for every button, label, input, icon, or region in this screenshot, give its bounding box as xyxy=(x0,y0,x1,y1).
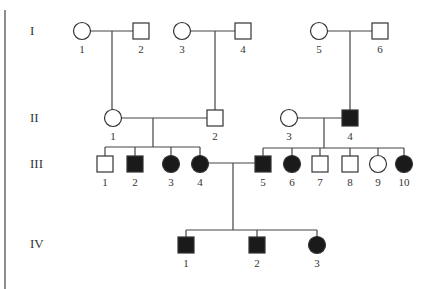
unaffected-female-circle-icon xyxy=(370,156,387,173)
unaffected-female-circle-icon xyxy=(74,23,91,40)
generation-label-IV: IV xyxy=(30,236,44,251)
affected-male-square-icon xyxy=(178,237,194,253)
affected-male-square-icon xyxy=(249,237,265,253)
individual-number: 3 xyxy=(286,130,292,142)
unaffected-male-square-icon xyxy=(312,156,328,172)
individual-IV-3: 3 xyxy=(309,237,326,270)
individual-III-4: 4 xyxy=(192,156,209,189)
affected-male-square-icon xyxy=(342,110,358,126)
individual-IV-1: 1 xyxy=(178,237,194,269)
individual-number: 4 xyxy=(240,43,246,55)
connector-lines xyxy=(5,10,404,289)
individual-II-2: 2 xyxy=(207,110,223,142)
individual-number: 2 xyxy=(212,130,218,142)
individual-III-7: 7 xyxy=(312,156,328,188)
affected-female-circle-icon xyxy=(163,156,180,173)
individual-number: 5 xyxy=(316,43,322,55)
pedigree-chart: IIIIIIIV 123456123412345678910123 xyxy=(0,0,434,289)
individual-number: 4 xyxy=(197,176,203,188)
generation-label-I: I xyxy=(30,23,34,38)
individual-IV-2: 2 xyxy=(249,237,265,269)
individual-II-3: 3 xyxy=(281,110,298,143)
generation-labels: IIIIIIIV xyxy=(30,23,44,251)
generation-label-II: II xyxy=(30,110,39,125)
unaffected-female-circle-icon xyxy=(311,23,328,40)
unaffected-female-circle-icon xyxy=(174,23,191,40)
individual-III-6: 6 xyxy=(284,156,301,189)
unaffected-male-square-icon xyxy=(342,156,358,172)
affected-male-square-icon xyxy=(255,156,271,172)
individual-number: 4 xyxy=(347,130,353,142)
individual-number: 2 xyxy=(138,43,144,55)
individual-number: 1 xyxy=(102,176,108,188)
individual-number: 1 xyxy=(183,257,189,269)
unaffected-female-circle-icon xyxy=(281,110,298,127)
individual-number: 7 xyxy=(317,176,323,188)
individual-III-9: 9 xyxy=(370,156,387,189)
individual-III-10: 10 xyxy=(396,156,413,189)
unaffected-male-square-icon xyxy=(207,110,223,126)
affected-female-circle-icon xyxy=(309,237,326,254)
individual-III-5: 5 xyxy=(255,156,271,188)
individuals: 123456123412345678910123 xyxy=(74,23,413,270)
individual-II-4: 4 xyxy=(342,110,358,142)
individual-number: 1 xyxy=(110,130,116,142)
individual-I-1: 1 xyxy=(74,23,91,56)
individual-III-1: 1 xyxy=(97,156,113,188)
affected-male-square-icon xyxy=(127,156,143,172)
individual-I-3: 3 xyxy=(174,23,191,56)
individual-number: 3 xyxy=(168,176,174,188)
individual-number: 8 xyxy=(347,176,353,188)
individual-III-2: 2 xyxy=(127,156,143,188)
unaffected-female-circle-icon xyxy=(105,110,122,127)
affected-female-circle-icon xyxy=(284,156,301,173)
unaffected-male-square-icon xyxy=(133,23,149,39)
individual-I-5: 5 xyxy=(311,23,328,56)
individual-number: 9 xyxy=(375,176,381,188)
individual-III-8: 8 xyxy=(342,156,358,188)
unaffected-male-square-icon xyxy=(97,156,113,172)
individual-II-1: 1 xyxy=(105,110,122,143)
individual-I-6: 6 xyxy=(372,23,388,55)
individual-number: 6 xyxy=(377,43,383,55)
individual-number: 2 xyxy=(132,176,138,188)
individual-I-2: 2 xyxy=(133,23,149,55)
individual-I-4: 4 xyxy=(235,23,251,55)
individual-number: 3 xyxy=(179,43,185,55)
individual-number: 6 xyxy=(289,176,295,188)
unaffected-male-square-icon xyxy=(372,23,388,39)
individual-number: 5 xyxy=(260,176,266,188)
generation-label-III: III xyxy=(30,156,43,171)
affected-female-circle-icon xyxy=(192,156,209,173)
individual-number: 1 xyxy=(79,43,85,55)
individual-III-3: 3 xyxy=(163,156,180,189)
unaffected-male-square-icon xyxy=(235,23,251,39)
individual-number: 3 xyxy=(314,257,320,269)
individual-number: 10 xyxy=(399,176,411,188)
affected-female-circle-icon xyxy=(396,156,413,173)
individual-number: 2 xyxy=(254,257,260,269)
